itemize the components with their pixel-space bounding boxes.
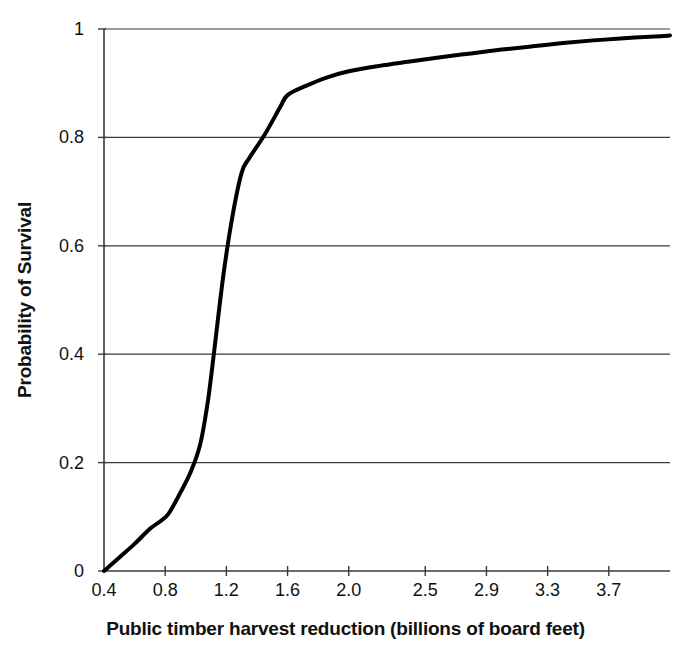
chart-figure: Probability of Survival 00.20.40.60.81 0… bbox=[0, 0, 691, 657]
gridlines bbox=[104, 29, 670, 463]
plot-area bbox=[0, 0, 691, 657]
x-axis-title: Public timber harvest reduction (billion… bbox=[0, 618, 691, 640]
data-series-line bbox=[104, 36, 670, 572]
axis-ticks bbox=[98, 29, 609, 576]
axis-lines bbox=[104, 29, 670, 571]
